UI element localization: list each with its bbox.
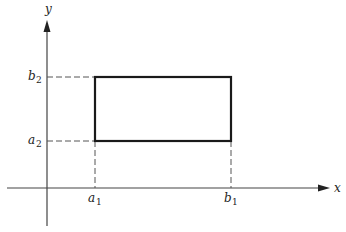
y-axis-arrow-icon (44, 20, 51, 32)
svg-text:b: b (224, 191, 232, 205)
tick-label-b2: b 2 (28, 69, 42, 85)
svg-text:1: 1 (96, 197, 102, 207)
svg-text:b: b (28, 69, 36, 83)
x-axis-label: x (334, 181, 341, 195)
tick-label-a1: a 1 (88, 191, 102, 207)
svg-text:a: a (88, 191, 95, 205)
tick-label-a2: a 2 (28, 133, 42, 149)
svg-text:a: a (28, 133, 35, 147)
svg-text:2: 2 (36, 75, 42, 85)
y-axis-label: y (44, 2, 52, 16)
tick-label-b1: b 1 (224, 191, 238, 207)
x-axis-arrow-icon (318, 185, 330, 192)
svg-text:1: 1 (232, 197, 238, 207)
svg-text:2: 2 (36, 139, 42, 149)
diagram-canvas: y x b 2 a 2 a 1 b 1 (0, 0, 346, 232)
rectangle (95, 77, 231, 141)
